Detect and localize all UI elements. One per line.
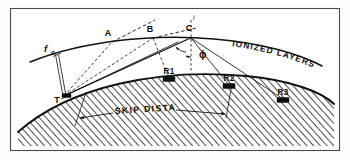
figure-root: A B C i T R1 R2 R3 f o ϕ IONIZED LAYERS … <box>0 0 350 160</box>
label-point-a: A <box>105 28 112 38</box>
receiver-block-r1 <box>163 77 175 82</box>
label-receiver-1: R1 <box>164 67 175 76</box>
label-point-b: B <box>147 24 154 34</box>
label-receiver-3: R3 <box>278 88 289 97</box>
transmitter-marker <box>62 94 71 98</box>
label-receiver-2: R2 <box>224 74 235 83</box>
label-point-c: C <box>186 23 193 33</box>
label-angle-phi: ϕ <box>199 49 207 60</box>
propagation-diagram: A B C i T R1 R2 R3 f o ϕ IONIZED LAYERS … <box>0 0 350 160</box>
label-transmitter: T <box>54 95 60 105</box>
receiver-block-r3 <box>277 98 289 103</box>
receiver-block-r2 <box>223 84 235 89</box>
label-critical-frequency-sub: o <box>51 49 55 56</box>
